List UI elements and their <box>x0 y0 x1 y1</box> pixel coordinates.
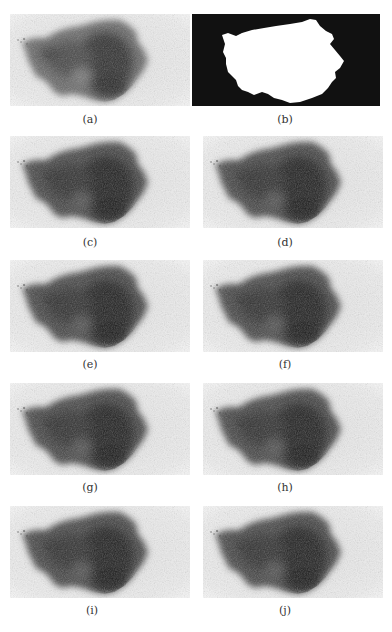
lesion-image <box>10 260 190 352</box>
panel-c-lesion-image <box>10 136 190 228</box>
panel-b-segmentation-mask <box>192 14 380 106</box>
lesion-image <box>10 383 190 475</box>
caption-d: (d) <box>255 236 315 250</box>
caption-c: (c) <box>60 236 120 250</box>
figure-grid: (a) (b) (c) (d) (e) (f) (g) (h) (i) (j) <box>0 0 392 632</box>
lesion-image <box>203 136 383 228</box>
lesion-image <box>10 506 190 598</box>
panel-e-lesion-image <box>10 260 190 352</box>
segmentation-mask-image <box>192 14 380 106</box>
caption-f: (f) <box>255 358 315 372</box>
caption-i: (i) <box>62 604 122 618</box>
panel-d-lesion-image <box>203 136 383 228</box>
caption-a: (a) <box>60 113 120 127</box>
caption-g: (g) <box>60 481 120 495</box>
lesion-image <box>203 383 383 475</box>
caption-b: (b) <box>255 113 315 127</box>
panel-f-lesion-image <box>203 260 383 352</box>
panel-h-lesion-image <box>203 383 383 475</box>
lesion-image <box>203 260 383 352</box>
panel-a-lesion-image <box>10 14 190 106</box>
caption-j: (j) <box>255 604 315 618</box>
lesion-image <box>10 136 190 228</box>
panel-i-lesion-image <box>10 506 190 598</box>
lesion-image <box>203 506 383 598</box>
lesion-image <box>10 14 190 106</box>
panel-j-lesion-image <box>203 506 383 598</box>
caption-e: (e) <box>60 358 120 372</box>
panel-g-lesion-image <box>10 383 190 475</box>
caption-h: (h) <box>255 481 315 495</box>
